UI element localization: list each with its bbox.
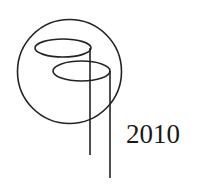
outer-circle — [18, 20, 122, 124]
upper-ellipse — [35, 39, 91, 57]
logo-diagram: 2010 — [0, 0, 199, 194]
year-label: 2010 — [126, 119, 180, 149]
lower-ellipse — [53, 61, 110, 81]
